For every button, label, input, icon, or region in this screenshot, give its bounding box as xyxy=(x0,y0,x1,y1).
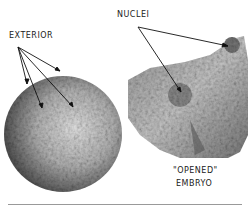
nuclei-label: NUCLEI xyxy=(117,10,149,19)
opened-label-line1: "OPENED" xyxy=(173,166,218,175)
bottom-rule xyxy=(8,204,242,205)
exterior-embryo-image xyxy=(4,76,122,192)
opened-embryo-image xyxy=(128,36,248,158)
opened-label-line2: EMBRYO xyxy=(176,179,212,188)
exterior-label: EXTERIOR xyxy=(9,31,53,40)
